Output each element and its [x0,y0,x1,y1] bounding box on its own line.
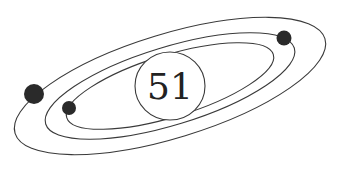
small-planet [62,101,76,115]
orbital-diagram: 51 [0,0,343,170]
medium-planet [277,31,292,46]
large-planet [24,84,44,104]
center-label: 51 [147,66,193,107]
